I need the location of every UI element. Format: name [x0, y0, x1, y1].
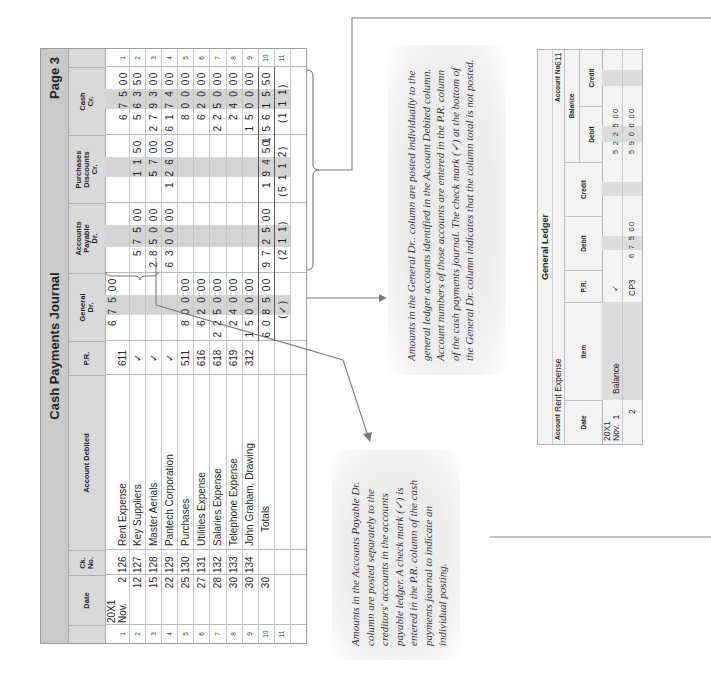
ledger-header-date: Date [564, 400, 602, 444]
totals-brace-icon [307, 70, 319, 270]
ledger-row: 20X1 Nov. 1 Balance ✓ 5 2 2 5 00 [602, 50, 623, 444]
ledger-balance-debit: 5 9 0 0 00 [627, 108, 636, 154]
ledger-headers: Date Item P.R. Debit Credit Balance Debi… [564, 50, 603, 444]
note-general-dr: Amounts in the General Dr.. column are p… [388, 45, 506, 375]
rotated-page: Cash Payments Journal Page 3 Date Ck. No… [0, 0, 711, 692]
ledger-day: 2 [627, 409, 637, 414]
ledger-header-balance-debit: Debit [580, 106, 602, 162]
ledger-row: 2 CP3 6 7 5 00 5 9 0 0 00 [622, 50, 642, 444]
ledger-header-balance: Balance [564, 50, 580, 162]
account-no-label: Account No. [552, 64, 564, 102]
general-ledger: General Ledger Account Rent Expense Acco… [537, 49, 643, 445]
ledger-debit: 6 7 5 00 [627, 220, 636, 258]
ledger-header-credit: Credit [564, 162, 602, 216]
ledger-title: General Ledger [538, 50, 553, 444]
account-label: Account [552, 414, 564, 440]
ledger-header-debit: Debit [564, 216, 602, 270]
ledger-header-pr: P.R. [564, 270, 602, 302]
ledger-pr: ✓ [610, 284, 620, 292]
arrow-down-icon [379, 294, 387, 302]
ap-brace-icon [106, 272, 158, 280]
connector-to-ledger [319, 18, 711, 170]
ledger-item: Balance [611, 363, 621, 394]
account-name: Rent Expense [552, 359, 564, 412]
arrow-icon [363, 432, 372, 442]
ledger-header-item: Item [564, 302, 602, 400]
ledger-pr: CP3 [627, 279, 637, 296]
note-accounts-payable: Amounts in the Accounts Payable Dr. colu… [332, 450, 460, 660]
ledger-header-balance-credit: Credit [580, 50, 602, 106]
account-no: 611 [552, 52, 564, 66]
ledger-date: 20X1 Nov. 1 [603, 415, 621, 441]
ledger-balance-debit: 5 2 2 5 00 [611, 108, 620, 154]
